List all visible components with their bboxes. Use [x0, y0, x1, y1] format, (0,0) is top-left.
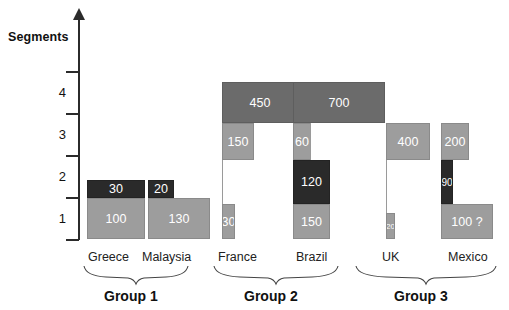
group-label-3: Group 3	[394, 288, 448, 304]
group-label-2: Group 2	[244, 288, 298, 304]
group-braces	[0, 0, 509, 310]
group-label-1: Group 1	[104, 288, 158, 304]
chart-canvas: Segments 4 3 2 1 30 100 20 130 450 150	[0, 0, 509, 310]
